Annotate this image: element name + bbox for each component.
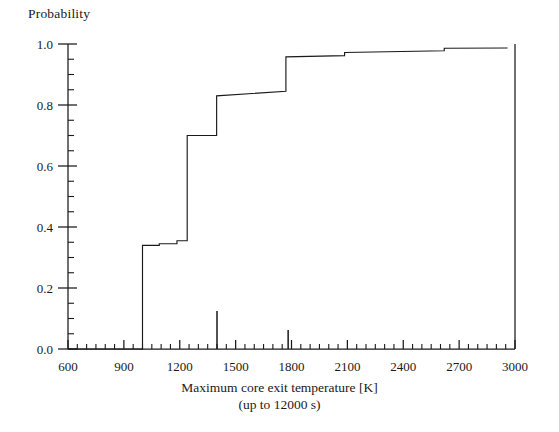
y-tick-label: 0.6 [37,159,54,174]
x-axis-title: Maximum core exit temperature [K] [0,379,559,396]
x-tick-label: 1200 [167,359,193,374]
x-tick-label: 3000 [502,359,528,374]
impulse-markers-group [217,311,288,349]
x-tick-label: 900 [114,359,134,374]
x-tick-label: 600 [58,359,78,374]
y-tick-label: 0.8 [37,98,53,113]
ticks-group [58,44,515,349]
x-tick-label: 2400 [390,359,416,374]
data-series-group [68,48,508,349]
y-tick-label: 0.4 [37,220,54,235]
x-tick-label: 1500 [223,359,249,374]
chart-figure: Probability 6009001200150018002100240027… [0,0,559,432]
x-axis-caption: Maximum core exit temperature [K] (up to… [0,379,559,413]
axes-group [68,44,515,349]
x-axis-subtitle: (up to 12000 s) [0,396,559,413]
ecdf-plot-canvas: 60090012001500180021002400270030000.00.2… [0,0,559,432]
x-tick-label: 1800 [279,359,305,374]
ecdf-step-curve [68,48,508,349]
x-tick-label: 2100 [334,359,360,374]
y-tick-label: 0.2 [37,281,53,296]
y-tick-label: 1.0 [37,37,53,52]
y-tick-label: 0.0 [37,342,53,357]
x-tick-label: 2700 [446,359,472,374]
tick-labels-group: 60090012001500180021002400270030000.00.2… [37,37,528,375]
